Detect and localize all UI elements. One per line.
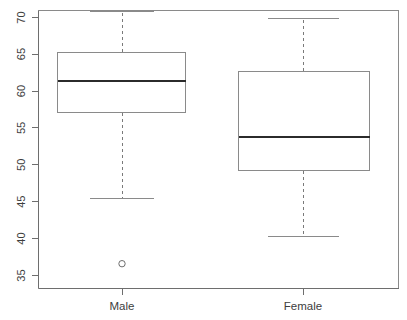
box-male [58,52,186,112]
y-tick-label-40: 40 [15,232,27,244]
x-tick-label-female: Female [284,300,322,312]
y-tick-label-60: 60 [15,85,27,97]
box-group-male [58,12,186,267]
y-tick-label-55: 55 [15,122,27,134]
y-tick-label-35: 35 [15,269,27,281]
y-axis-ticks [32,18,39,276]
x-tick-label-male: Male [110,300,135,312]
y-tick-label-50: 50 [15,159,27,171]
x-axis-tick-labels: Male Female [110,300,323,312]
box-female [239,71,370,171]
outlier-male-1 [119,261,125,267]
y-tick-label-70: 70 [15,11,27,23]
y-tick-label-45: 45 [15,196,27,208]
box-group-female [239,19,370,236]
boxplot-figure: 35 40 45 50 55 60 65 70 Male Female [0,0,407,320]
y-axis-tick-labels: 35 40 45 50 55 60 65 70 [15,11,27,281]
y-tick-label-65: 65 [15,48,27,60]
boxplot-canvas: 35 40 45 50 55 60 65 70 Male Female [0,0,407,320]
x-axis-ticks [122,288,303,295]
